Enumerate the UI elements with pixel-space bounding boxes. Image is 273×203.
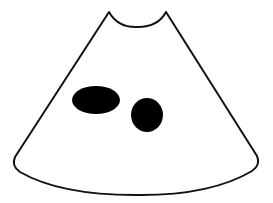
left-spot bbox=[72, 86, 120, 114]
diagram-canvas bbox=[0, 0, 273, 203]
cone-figure bbox=[0, 0, 273, 203]
right-spot bbox=[131, 98, 163, 132]
